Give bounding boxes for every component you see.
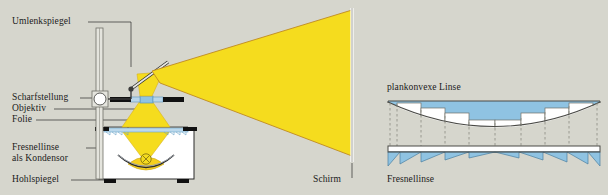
planoconvex-lens (388, 101, 600, 166)
beam-condenser-to-objective (122, 101, 170, 127)
projector-foot-right (177, 179, 189, 183)
focus-knob[interactable] (94, 93, 106, 105)
label-scharfstellung: Scharfstellung (12, 92, 68, 103)
figure-root: Umlenkspiegel Scharfstellung Objektiv Fo… (0, 0, 608, 195)
objective-barrel-right (153, 97, 163, 102)
fresnel-condenser-plate (104, 128, 188, 132)
label-schirm: Schirm (313, 174, 341, 185)
projector-foot-left (104, 179, 116, 183)
label-hohlspiegel: Hohlspiegel (12, 174, 59, 185)
objective-lens (140, 96, 153, 103)
label-fresnellinse: Fresnellinse (387, 174, 434, 185)
fresnel-plate (388, 146, 600, 152)
label-plankonvexe-linse: plankonvexe Linse (387, 82, 461, 93)
figure-canvas (0, 0, 608, 195)
label-fresnellinse-kondensor-line2: als Kondensor (12, 153, 68, 164)
label-objektiv: Objektiv (12, 103, 46, 114)
stage-frame-right (183, 127, 197, 131)
label-umlenkspiegel: Umlenkspiegel (12, 16, 71, 27)
label-fresnellinse-kondensor-line1: Fresnellinse (12, 142, 59, 153)
fresnel-prisms (388, 152, 600, 166)
objective-mount-right (163, 97, 184, 102)
fresnel-lens (388, 146, 600, 166)
label-folie: Folie (12, 114, 32, 125)
